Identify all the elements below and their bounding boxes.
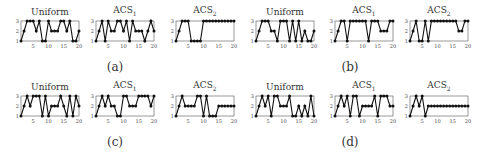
svg-text:10: 10 [45,118,51,124]
svg-text:2: 2 [251,28,254,34]
svg-text:10: 10 [120,43,126,49]
svg-text:20: 20 [231,118,237,124]
svg-text:15: 15 [216,118,222,124]
svg-text:5: 5 [421,43,424,49]
svg-text:2: 2 [91,103,94,109]
svg-text:1: 1 [16,113,19,119]
svg-text:20: 20 [231,43,237,49]
svg-text:15: 15 [375,118,381,124]
svg-text:3: 3 [91,18,94,24]
svg-text:15: 15 [296,43,302,49]
svg-text:2: 2 [171,103,174,109]
svg-text:10: 10 [434,118,440,124]
svg-text:15: 15 [296,118,302,124]
panel-caption: (c) [100,135,130,149]
svg-text:2: 2 [330,28,333,34]
svg-text:10: 10 [280,118,286,124]
svg-text:1: 1 [91,113,94,119]
mini-plot-uniform: Uniform1235101520 [248,9,322,53]
mini-plot-acs1: ACS11235101520 [88,9,162,53]
mini-plot-uniform: Uniform1235101520 [13,9,87,53]
svg-text:1: 1 [251,113,254,119]
svg-text:2: 2 [405,28,408,34]
svg-text:5: 5 [421,118,424,124]
svg-text:5: 5 [346,118,349,124]
svg-text:5: 5 [267,118,270,124]
svg-text:1: 1 [330,38,333,44]
svg-text:15: 15 [61,118,67,124]
mini-plot-uniform: Uniform1235101520 [13,84,87,128]
svg-text:1: 1 [16,38,19,44]
svg-text:1: 1 [405,38,408,44]
svg-text:20: 20 [311,43,317,49]
svg-text:2: 2 [16,103,19,109]
svg-text:10: 10 [359,118,365,124]
svg-text:10: 10 [45,43,51,49]
svg-text:2: 2 [251,103,254,109]
svg-text:5: 5 [187,43,190,49]
svg-text:10: 10 [359,43,365,49]
svg-text:1: 1 [171,113,174,119]
svg-text:5: 5 [107,43,110,49]
mini-plot-uniform: Uniform1235101520 [248,84,322,128]
svg-text:1: 1 [171,38,174,44]
svg-text:20: 20 [76,43,82,49]
svg-text:15: 15 [450,118,456,124]
svg-text:2: 2 [16,28,19,34]
svg-text:5: 5 [32,118,35,124]
svg-text:10: 10 [200,118,206,124]
svg-text:3: 3 [330,93,333,99]
svg-text:10: 10 [120,118,126,124]
mini-plot-acs2: ACS21235101520 [168,84,242,128]
svg-text:15: 15 [136,118,142,124]
svg-text:3: 3 [405,93,408,99]
svg-text:3: 3 [171,18,174,24]
svg-text:3: 3 [251,18,254,24]
svg-text:10: 10 [280,43,286,49]
svg-text:5: 5 [267,43,270,49]
svg-text:15: 15 [450,43,456,49]
svg-text:1: 1 [251,38,254,44]
svg-text:2: 2 [171,28,174,34]
svg-text:10: 10 [200,43,206,49]
svg-text:1: 1 [405,113,408,119]
mini-plot-acs1: ACS11235101520 [327,84,401,128]
svg-text:20: 20 [390,118,396,124]
svg-text:3: 3 [16,93,19,99]
svg-text:3: 3 [91,93,94,99]
svg-text:1: 1 [91,38,94,44]
svg-text:3: 3 [171,93,174,99]
svg-text:5: 5 [187,118,190,124]
svg-text:2: 2 [405,103,408,109]
svg-text:2: 2 [91,28,94,34]
svg-text:1: 1 [330,113,333,119]
svg-text:5: 5 [107,118,110,124]
svg-text:15: 15 [61,43,67,49]
svg-text:20: 20 [311,118,317,124]
svg-text:20: 20 [465,118,471,124]
mini-plot-acs1: ACS11235101520 [88,84,162,128]
panel-caption: (a) [100,60,130,74]
svg-text:20: 20 [151,43,157,49]
svg-text:15: 15 [375,43,381,49]
svg-text:2: 2 [330,103,333,109]
svg-text:5: 5 [32,43,35,49]
svg-text:20: 20 [151,118,157,124]
svg-text:20: 20 [390,43,396,49]
mini-plot-acs1: ACS11235101520 [327,9,401,53]
svg-text:3: 3 [16,18,19,24]
panel-caption: (b) [335,60,365,74]
svg-text:15: 15 [136,43,142,49]
svg-text:3: 3 [330,18,333,24]
mini-plot-acs2: ACS21235101520 [402,84,476,128]
panel-caption: (d) [335,135,365,149]
svg-text:15: 15 [216,43,222,49]
mini-plot-acs2: ACS21235101520 [168,9,242,53]
svg-text:20: 20 [465,43,471,49]
mini-plot-acs2: ACS21235101520 [402,9,476,53]
svg-text:3: 3 [251,93,254,99]
svg-text:20: 20 [76,118,82,124]
svg-text:3: 3 [405,18,408,24]
svg-text:10: 10 [434,43,440,49]
svg-text:5: 5 [346,43,349,49]
